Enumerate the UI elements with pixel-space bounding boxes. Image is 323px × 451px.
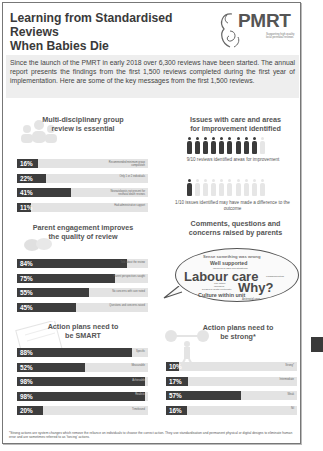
bar-label: Only 1 or 2 individuals xyxy=(119,175,145,178)
word-cloud-item: Delays in death certificate xyxy=(202,288,232,291)
bar-percent: 16% xyxy=(169,407,182,414)
pregnant-figure-icon xyxy=(211,137,217,154)
word-cloud-item: Communication xyxy=(266,275,284,278)
bar-percent: 75% xyxy=(20,275,33,282)
bar-label: Questions and concerns raised xyxy=(109,304,145,307)
title-line: the quality of review xyxy=(13,233,153,242)
bar-percent: 98% xyxy=(20,393,33,400)
bar-row: 98%Achievable xyxy=(17,377,148,386)
bar-label: Recommended minimum group composition xyxy=(100,161,145,167)
section-title-smart: Action plans need to be SMART xyxy=(33,323,133,340)
speech-bubble-tail-icon xyxy=(163,286,183,300)
bar-label: Had administrative support xyxy=(114,204,145,207)
pregnant-figure-icon xyxy=(211,179,217,196)
bar-row: 22%Only 1 or 2 individuals xyxy=(17,174,148,183)
section-title-multidisciplinary: Multi-disciplinary group review is essen… xyxy=(23,116,143,133)
bar-row: 11%Had administrative support xyxy=(17,203,148,212)
bar-row: 20%Timebound xyxy=(17,406,148,415)
side-thumbnail xyxy=(311,337,323,352)
title-line-2: When Babies Die xyxy=(10,39,210,53)
pregnant-figure-icon xyxy=(227,179,233,196)
bar-row: 45%Questions and concerns raised xyxy=(17,303,148,312)
bar-row: 57%Weak xyxy=(166,391,297,400)
bar-row: 98%Realistic xyxy=(17,392,148,401)
bar-fill xyxy=(17,259,127,268)
footnote: *Strong actions are system changes which… xyxy=(9,431,299,440)
pregnant-figure-icon xyxy=(194,137,200,154)
pregnant-figure-icon xyxy=(243,137,249,154)
page-title: Learning from Standardised Reviews When … xyxy=(10,11,210,53)
bar-row: 17%Intermediate xyxy=(166,377,297,386)
pregnant-figure-icon xyxy=(260,179,266,196)
bar-fill xyxy=(17,377,145,386)
caption-areas-for-improvement: 9/10 reviews identified areas for improv… xyxy=(183,157,283,163)
bar-percent: 84% xyxy=(20,260,33,267)
bar-row: 41%Neonatologists not present for neonat… xyxy=(17,188,148,197)
pregnant-figure-icon xyxy=(186,137,192,154)
bar-row: 84%Told about the review xyxy=(17,259,148,268)
title-line: be SMART xyxy=(33,332,133,341)
pregnant-figure-icon xyxy=(219,179,225,196)
title-line-1: Learning from Standardised Reviews xyxy=(10,11,210,39)
bar-row: 52%Measurable xyxy=(17,363,148,372)
bar-percent: 57% xyxy=(169,392,182,399)
section-title-parent-engagement: Parent engagement improves the quality o… xyxy=(13,224,153,241)
bar-label: Strong* xyxy=(285,364,294,367)
pregnant-figure-icon xyxy=(227,137,233,154)
bar-fill xyxy=(17,348,132,357)
title-line: concerns raised by parents xyxy=(173,229,298,238)
bar-percent: 41% xyxy=(20,189,33,196)
pregnant-figure-icon xyxy=(252,137,258,154)
bar-percent: 10% xyxy=(169,363,182,370)
bar-row: 88%Specific xyxy=(17,348,148,357)
bar-label: Intermediate xyxy=(280,378,294,381)
bar-label: Parent perspectives sought xyxy=(114,275,145,278)
logo-tagline: Supporting high quality local perinatal … xyxy=(266,33,298,40)
word-cloud-item: Antenatal care xyxy=(242,298,260,301)
caption-difference-to-outcome: 1/10 issues identified may have made a d… xyxy=(175,200,290,212)
bar-label: Measurable xyxy=(131,364,145,367)
section-title-issues: Issues with care and areas for improveme… xyxy=(173,116,298,133)
infographic-page: Learning from Standardised Reviews When … xyxy=(2,2,301,444)
title-line: review is essential xyxy=(23,125,143,134)
bar-row: 55%No concerns with care noted xyxy=(17,288,148,297)
word-cloud-item: Well supported xyxy=(210,260,247,266)
bar-percent: 55% xyxy=(20,289,33,296)
bar-percent: 17% xyxy=(169,378,182,385)
bar-label: Timebound xyxy=(132,408,145,411)
bar-label: No concerns with care noted xyxy=(112,290,145,293)
bar-percent: 45% xyxy=(20,304,33,311)
bar-fill xyxy=(17,392,145,401)
bar-percent: 52% xyxy=(20,364,33,371)
bar-row: 75%Parent perspectives sought xyxy=(17,274,148,283)
intro-panel: Since the launch of the PMRT in early 20… xyxy=(6,55,299,98)
pregnant-figure-icon xyxy=(202,179,208,196)
logo-text: PMRT xyxy=(238,10,291,32)
bar-percent: 11% xyxy=(20,204,32,211)
pregnant-figure-icon xyxy=(186,179,192,196)
section-title-comments: Comments, questions and concerns raised … xyxy=(173,220,298,237)
pregnant-figure-icon xyxy=(260,137,266,154)
bar-percent: 88% xyxy=(20,349,33,356)
section-title-strong: Action plans need to be strong* xyxy=(178,324,298,341)
bar-label: Weak xyxy=(287,393,294,396)
bar-label: Achievable xyxy=(132,379,145,382)
bar-row: 16%Recommended minimum group composition xyxy=(17,159,148,168)
figure-row-areas-for-improvement xyxy=(186,137,266,154)
word-cloud-item: Sense something was wrong xyxy=(203,254,260,259)
bar-label: Neonatologists not present for neonatal … xyxy=(100,190,145,196)
word-cloud-bubble: Sense something was wrong Well supported… xyxy=(175,248,299,302)
bar-label: Told about the review xyxy=(120,261,145,264)
title-line: for improvement identified xyxy=(173,125,298,134)
pregnant-figure-icon xyxy=(219,137,225,154)
pmrt-logo: PMRT Supporting high quality local perin… xyxy=(216,9,296,49)
pregnant-figure-icon xyxy=(252,179,258,196)
bar-percent: 16% xyxy=(20,160,33,167)
word-cloud-item: Culture within unit xyxy=(198,292,245,298)
pregnant-figure-icon xyxy=(194,179,200,196)
bar-row: 16%Nil xyxy=(166,406,297,415)
pregnant-figure-icon xyxy=(202,137,208,154)
bar-label: Specific xyxy=(136,350,145,353)
pregnant-figure-icon xyxy=(243,179,249,196)
pregnant-figure-icon xyxy=(235,137,241,154)
